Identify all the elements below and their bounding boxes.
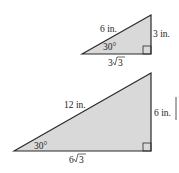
large-triangle: 12 in. 6 in. 30° 6 3 <box>14 73 171 165</box>
large-opposite-label: 6 in. <box>154 108 171 118</box>
small-adjacent-coef: 3 <box>108 58 113 68</box>
small-adjacent-radicand: 3 <box>118 58 123 68</box>
small-hypotenuse-label: 6 in. <box>100 24 117 34</box>
large-adjacent-coef: 6 <box>69 155 74 165</box>
large-triangle-shape <box>14 73 151 151</box>
small-angle-label: 30° <box>103 42 117 52</box>
small-adjacent-label: 3 3 <box>108 57 125 68</box>
similar-triangles-diagram: 6 in. 3 in. 30° 3 3 12 in. 6 in. 30° 6 3 <box>0 0 179 173</box>
small-triangle: 6 in. 3 in. 30° 3 3 <box>82 15 170 68</box>
large-hypotenuse-label: 12 in. <box>64 100 86 110</box>
large-adjacent-label: 6 3 <box>69 154 86 165</box>
small-opposite-label: 3 in. <box>153 29 170 39</box>
large-angle-label: 30° <box>34 141 48 151</box>
small-triangle-shape <box>82 15 151 54</box>
large-adjacent-radicand: 3 <box>79 155 84 165</box>
